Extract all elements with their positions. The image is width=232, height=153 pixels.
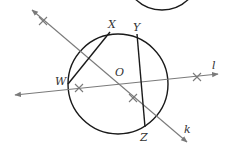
label-o: O	[115, 66, 124, 79]
geometry-diagram: X Y W Z O k l	[0, 0, 232, 153]
chord-yz	[137, 34, 145, 127]
label-y: Y	[133, 21, 142, 34]
chord-wx	[68, 32, 110, 84]
label-z: Z	[139, 131, 148, 144]
partial-circle-top	[124, 0, 200, 10]
label-w: W	[55, 75, 68, 88]
label-line-k: k	[184, 123, 191, 136]
cross-marks	[39, 17, 201, 102]
label-x: X	[107, 18, 117, 31]
label-line-l: l	[212, 59, 216, 72]
